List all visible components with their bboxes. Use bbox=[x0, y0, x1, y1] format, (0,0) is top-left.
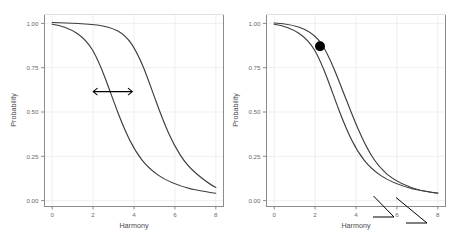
ytick-label-075: 0.75 bbox=[26, 64, 39, 71]
xtick-label-4: 4 bbox=[354, 211, 358, 218]
ytick-label-100: 1.00 bbox=[248, 20, 261, 27]
x-axis-title-right: Harmony bbox=[341, 221, 371, 230]
ytick-label-075: 0.75 bbox=[248, 64, 261, 71]
y-axis-title-left: Probability bbox=[9, 93, 18, 127]
figure-caption bbox=[0, 232, 463, 244]
x-axis-title-left: Harmony bbox=[119, 221, 149, 230]
xtick-label-6: 6 bbox=[173, 211, 177, 218]
xtick-label-8: 8 bbox=[214, 211, 218, 218]
xtick-label-4: 4 bbox=[132, 211, 136, 218]
xtick-label-6: 6 bbox=[395, 211, 399, 218]
xtick-label-0: 0 bbox=[50, 211, 54, 218]
ytick-label-050: 0.50 bbox=[26, 108, 39, 115]
xtick-label-2: 2 bbox=[313, 211, 317, 218]
figure-panel-pair: 0 2 4 6 8 0.00 0.25 0.50 0.75 1.00 Harmo… bbox=[0, 0, 463, 247]
ytick-label-000: 0.00 bbox=[26, 197, 39, 204]
ytick-label-025: 0.25 bbox=[248, 153, 261, 160]
ytick-label-000: 0.00 bbox=[248, 197, 261, 204]
ytick-label-100: 1.00 bbox=[26, 20, 39, 27]
y-axis-title-right: Probability bbox=[231, 93, 240, 127]
ytick-label-050: 0.50 bbox=[248, 108, 261, 115]
ytick-label-025: 0.25 bbox=[26, 153, 39, 160]
xtick-label-2: 2 bbox=[91, 211, 95, 218]
highlight-dot bbox=[315, 41, 325, 51]
xtick-label-0: 0 bbox=[272, 211, 276, 218]
xtick-label-8: 8 bbox=[436, 211, 440, 218]
